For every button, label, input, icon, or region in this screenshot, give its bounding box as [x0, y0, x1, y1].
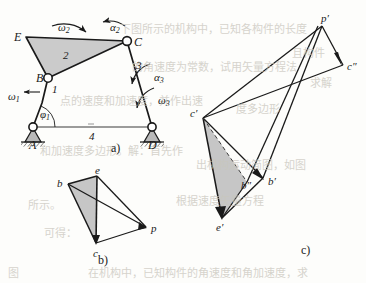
alpha2-arrow [103, 21, 125, 26]
phi1-angle-arc [41, 106, 55, 127]
accel-edge-pp-bpp [247, 26, 318, 182]
velocity-arrowhead-c [92, 235, 100, 245]
diagram-b-velocity-polygon [68, 176, 147, 245]
omega2-arrow [52, 24, 86, 32]
velocity-edge-e-c [96, 176, 97, 243]
accel-edge-cp-cpp [203, 65, 343, 118]
accel-arrowhead-cpp [334, 52, 342, 66]
joint-C [123, 37, 132, 46]
acceleration-shaded-triangle [203, 118, 247, 218]
link-1-crank [33, 78, 48, 127]
accel-arrowhead-bp [252, 168, 264, 180]
link-3-coupler [127, 41, 152, 127]
joint-B [44, 74, 52, 82]
diagram-c-acceleration-polygon [203, 26, 343, 220]
velocity-edge-e-p [97, 176, 146, 227]
mechanism-figure [0, 0, 366, 283]
link-2-body [26, 37, 127, 78]
diagram-a-mechanism [21, 21, 164, 147]
